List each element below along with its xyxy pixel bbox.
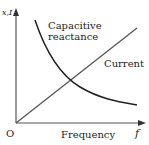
reactance-label: Capacitive reactance <box>48 20 102 42</box>
x-axis-arrow-icon <box>138 120 146 126</box>
x-axis-title: Frequency <box>61 130 115 140</box>
current-label: Current <box>104 59 144 69</box>
x-axis-label: f <box>135 128 139 139</box>
y-axis-label: x,I <box>2 9 12 17</box>
reactance-label-line2: reactance <box>48 31 102 42</box>
reactance-label-line1: Capacitive <box>48 20 102 31</box>
current-line <box>16 28 137 123</box>
reactance-frequency-diagram: x,I f O Frequency Capacitive reactance C… <box>0 0 149 145</box>
y-axis-arrow-icon <box>13 8 19 16</box>
origin-label: O <box>6 129 14 139</box>
